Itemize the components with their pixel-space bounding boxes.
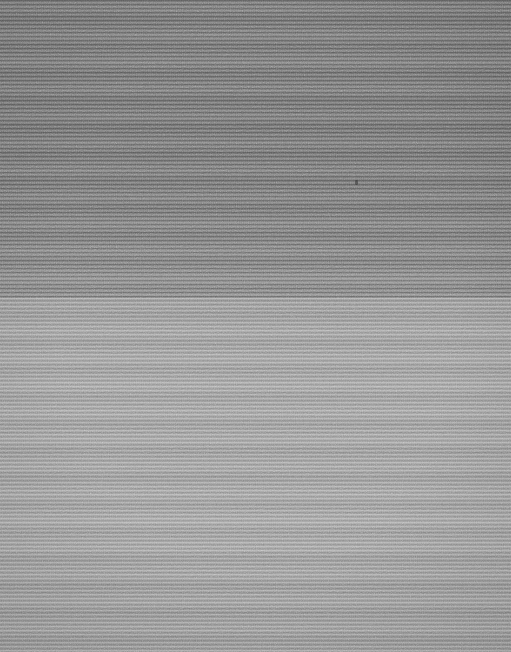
corrupted-screen-capture: [0, 0, 511, 652]
upper-dark-band: [0, 0, 511, 292]
lower-light-band: [0, 314, 511, 652]
transition-band: [0, 286, 511, 316]
